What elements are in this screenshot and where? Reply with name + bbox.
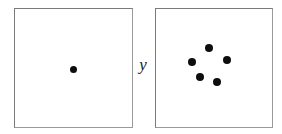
- figure-root: y: [0, 0, 282, 134]
- right-panel: [155, 8, 273, 128]
- y-axis-label: y: [134, 56, 152, 73]
